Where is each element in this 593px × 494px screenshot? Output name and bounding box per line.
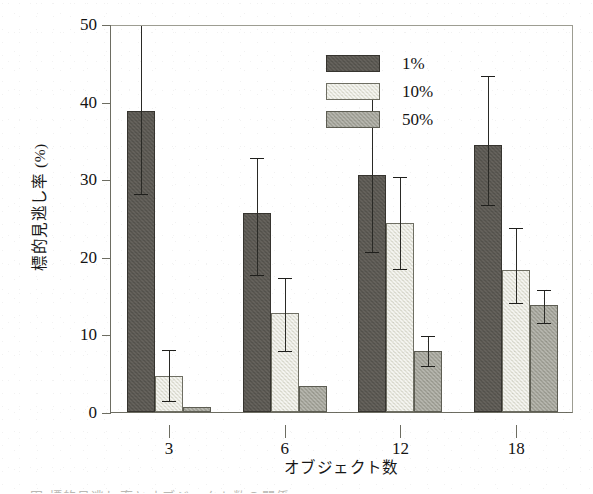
plot-area: 01020304050 361218 1%10%50%	[110, 25, 573, 413]
legend-label: 50%	[402, 110, 433, 130]
error-bar-stem	[544, 290, 545, 324]
legend: 1%10%50%	[326, 51, 433, 135]
legend-item: 10%	[326, 79, 433, 104]
error-bar-cap-upper	[509, 228, 523, 229]
y-tick-mark	[102, 413, 111, 414]
error-bar-stem	[400, 177, 401, 269]
y-tick-label: 30	[80, 169, 97, 191]
error-bar-cap-lower	[509, 303, 523, 304]
bar	[299, 386, 327, 412]
legend-label: 1%	[402, 54, 425, 74]
error-bar-stem	[169, 350, 170, 401]
x-tick-mark	[169, 425, 170, 438]
error-bar-stem	[257, 158, 258, 276]
y-tick-mark	[102, 335, 111, 336]
error-bar-cap-upper	[421, 336, 435, 337]
error-bar-cap-lower	[162, 401, 176, 402]
y-axis-title: 標的見逃し率 (%)	[27, 87, 49, 327]
error-bar-cap-lower	[421, 366, 435, 367]
figure: 標的見逃し率 (%) 01020304050 361218 1%10%50% オ…	[0, 0, 593, 494]
error-bar-stem	[516, 228, 517, 304]
x-tick-mark	[400, 425, 401, 438]
error-bar-cap-lower	[481, 205, 495, 206]
y-tick-label: 10	[80, 324, 97, 346]
legend-swatch	[326, 55, 380, 72]
legend-swatch	[326, 111, 380, 128]
error-bar-cap-upper	[481, 76, 495, 77]
y-tick-label: 20	[80, 247, 97, 269]
x-tick-mark	[516, 425, 517, 438]
error-bar-stem	[141, 26, 142, 195]
bar	[183, 407, 211, 412]
error-bar-cap-upper	[278, 278, 292, 279]
y-tick-mark	[102, 258, 111, 259]
error-bar-stem	[428, 336, 429, 367]
y-tick-mark	[102, 103, 111, 104]
legend-item: 1%	[326, 51, 433, 76]
error-bar-cap-lower	[134, 194, 148, 195]
y-tick-mark	[102, 25, 111, 26]
error-bar-stem	[285, 278, 286, 352]
error-bar-stem	[488, 76, 489, 206]
legend-label: 10%	[402, 82, 433, 102]
error-bar-cap-lower	[393, 269, 407, 270]
x-axis-title: オブジェクト数	[110, 455, 573, 477]
y-tick-label: 40	[80, 92, 97, 114]
error-bar-cap-upper	[393, 177, 407, 178]
y-tick-label: 50	[80, 14, 97, 36]
error-bar-cap-lower	[537, 323, 551, 324]
error-bar-cap-lower	[250, 275, 264, 276]
y-tick-label: 0	[89, 402, 98, 424]
error-bar-cap-upper	[537, 290, 551, 291]
error-bar-cap-upper	[162, 350, 176, 351]
legend-swatch	[326, 83, 380, 100]
x-tick-mark	[285, 425, 286, 438]
error-bar-cap-upper	[250, 158, 264, 159]
error-bar-cap-lower	[365, 252, 379, 253]
legend-item: 50%	[326, 107, 433, 132]
caption-sliver: 図 標的見逃し率とオブジェクト数の関係	[30, 486, 560, 493]
y-tick-mark	[102, 180, 111, 181]
error-bar-cap-lower	[278, 351, 292, 352]
